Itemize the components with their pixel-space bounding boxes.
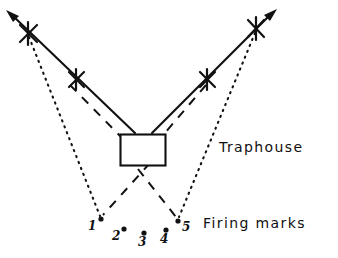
firing-mark-dot-2	[121, 226, 126, 231]
firing-mark-label-2: 2	[112, 229, 120, 243]
dashed-line-lower-left	[103, 163, 150, 215]
firing-mark-label-5: 5	[182, 220, 190, 234]
station-x-marks	[20, 17, 264, 90]
x-mark-right-outer	[248, 17, 264, 40]
sight-dotted-lines	[29, 33, 255, 217]
firing-mark-label-4: 4	[160, 232, 168, 246]
firing-mark-label-1: 1	[88, 219, 96, 233]
traphouse-box	[121, 135, 166, 166]
firing-marks-label: Firing marks	[203, 215, 306, 231]
firing-mark-label-3: 3	[138, 235, 146, 249]
traphouse-label: Traphouse	[219, 139, 304, 155]
dotted-line-right	[179, 33, 255, 217]
dashed-line-upper-left	[70, 85, 126, 142]
dashed-line-upper-right	[158, 85, 206, 141]
dashed-line-lower-right	[138, 169, 176, 217]
firing-mark-dot-1	[98, 216, 103, 221]
firing-mark-dot-5	[175, 218, 180, 223]
solid-boundary-lines	[6, 9, 277, 133]
dotted-line-left	[29, 37, 100, 216]
